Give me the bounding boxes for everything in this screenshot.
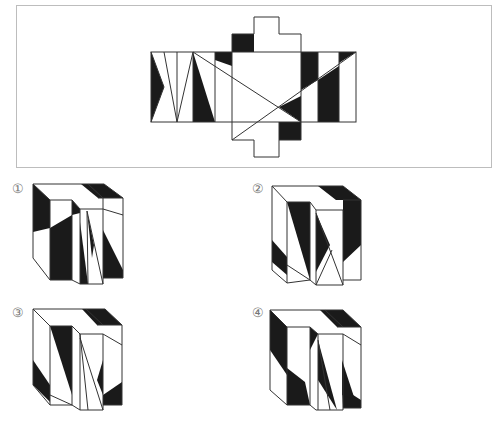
- option-2-figure: [272, 186, 361, 285]
- puzzle-figure: [0, 0, 497, 421]
- option-1-figure: [33, 184, 123, 284]
- option-1-label[interactable]: ①: [12, 182, 24, 196]
- option-2-label[interactable]: ②: [252, 182, 264, 196]
- option-4-figure: [270, 310, 361, 410]
- option-4-label[interactable]: ④: [252, 306, 264, 320]
- option-3-figure: [33, 309, 122, 410]
- option-3-label[interactable]: ③: [12, 306, 24, 320]
- net-diagram: [151, 17, 356, 157]
